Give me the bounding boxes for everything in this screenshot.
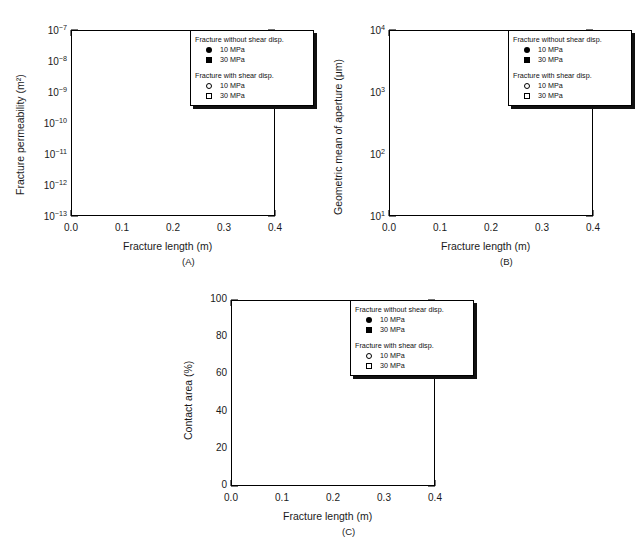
legend-label: 10 MPa	[538, 45, 563, 55]
panel-b-x-axis-label: Fracture length (m)	[441, 240, 530, 252]
x-tick-label: 0.3	[531, 222, 553, 233]
x-tick-label: 0.4	[424, 492, 446, 503]
panel-c: Contact area (%) 020406080100 0.00.10.20…	[160, 272, 480, 542]
panel-c-legend: Fracture without shear disp. 10 MPa 30 M…	[350, 300, 474, 376]
y-tick-label: 103	[345, 85, 385, 98]
legend-label: 30 MPa	[220, 91, 245, 101]
legend-label: 30 MPa	[220, 55, 245, 65]
open-square-icon	[363, 363, 375, 369]
legend-label: 30 MPa	[380, 361, 405, 371]
panel-a-legend: Fracture without shear disp. 10 MPa 30 M…	[190, 30, 314, 106]
legend-row-without-10mpa: 10 MPa	[521, 45, 626, 55]
y-tick-label: 10−9	[27, 85, 67, 98]
filled-square-icon	[521, 57, 533, 63]
panel-b-legend: Fracture without shear disp. 10 MPa 30 M…	[508, 30, 632, 106]
open-circle-icon	[521, 83, 533, 89]
legend-title-without-shear: Fracture without shear disp.	[355, 305, 468, 315]
y-tick-label: 101	[345, 209, 385, 222]
legend-label: 30 MPa	[538, 55, 563, 65]
filled-square-icon	[363, 327, 375, 333]
legend-row-with-30mpa: 30 MPa	[363, 361, 468, 371]
x-tick-label: 0.0	[378, 222, 400, 233]
legend-label: 30 MPa	[380, 325, 405, 335]
legend-row-with-30mpa: 30 MPa	[203, 91, 308, 101]
y-tick-label: 80	[187, 330, 227, 341]
legend-label: 10 MPa	[380, 315, 405, 325]
legend-row-with-10mpa: 10 MPa	[203, 81, 308, 91]
x-tick-label: 0.0	[60, 222, 82, 233]
x-tick-label: 0.2	[480, 222, 502, 233]
filled-circle-icon	[363, 317, 375, 323]
x-tick-label: 0.3	[373, 492, 395, 503]
y-tick-label: 10−11	[27, 147, 67, 160]
panel-a: Fracture permeability (m²) 10−1310−1210−…	[0, 0, 320, 275]
filled-square-icon	[203, 57, 215, 63]
y-tick-label: 10−8	[27, 54, 67, 67]
panel-c-tag: (C)	[342, 526, 355, 537]
y-tick-label: 102	[345, 147, 385, 160]
legend-row-with-10mpa: 10 MPa	[521, 81, 626, 91]
x-tick-label: 0.4	[264, 222, 286, 233]
legend-label: 10 MPa	[380, 351, 405, 361]
legend-label: 10 MPa	[538, 81, 563, 91]
x-tick-label: 0.2	[162, 222, 184, 233]
y-tick-label: 0	[187, 479, 227, 490]
x-tick-label: 0.1	[429, 222, 451, 233]
legend-title-without-shear: Fracture without shear disp.	[513, 35, 626, 45]
legend-row-without-10mpa: 10 MPa	[203, 45, 308, 55]
legend-title-with-shear: Fracture with shear disp.	[513, 71, 626, 81]
y-tick-label: 20	[187, 442, 227, 453]
open-square-icon	[203, 93, 215, 99]
x-tick-label: 0.3	[213, 222, 235, 233]
y-tick-label: 10−13	[27, 209, 67, 222]
panel-b: Geometric mean of aperture (μm) 10110210…	[318, 0, 637, 275]
y-tick-label: 60	[187, 367, 227, 378]
legend-row-without-30mpa: 30 MPa	[203, 55, 308, 65]
open-circle-icon	[203, 83, 215, 89]
open-square-icon	[521, 93, 533, 99]
panel-b-y-axis-label: Geometric mean of aperture (μm)	[332, 59, 344, 215]
filled-circle-icon	[203, 47, 215, 53]
panel-a-x-axis-label: Fracture length (m)	[123, 240, 212, 252]
y-tick-label: 100	[187, 293, 227, 304]
legend-label: 10 MPa	[220, 81, 245, 91]
x-tick-label: 0.1	[271, 492, 293, 503]
legend-label: 30 MPa	[538, 91, 563, 101]
y-tick-label: 40	[187, 405, 227, 416]
panel-b-tag: (B)	[500, 256, 513, 267]
panel-a-tag: (A)	[182, 256, 195, 267]
open-circle-icon	[363, 353, 375, 359]
filled-circle-icon	[521, 47, 533, 53]
y-tick-label: 10−7	[27, 23, 67, 36]
legend-row-with-30mpa: 30 MPa	[521, 91, 626, 101]
legend-row-without-30mpa: 30 MPa	[521, 55, 626, 65]
x-tick-label: 0.0	[220, 492, 242, 503]
legend-label: 10 MPa	[220, 45, 245, 55]
x-tick-label: 0.1	[111, 222, 133, 233]
legend-row-without-30mpa: 30 MPa	[363, 325, 468, 335]
legend-title-without-shear: Fracture without shear disp.	[195, 35, 308, 45]
y-tick-label: 10−10	[27, 116, 67, 129]
x-tick-label: 0.2	[322, 492, 344, 503]
legend-title-with-shear: Fracture with shear disp.	[355, 341, 468, 351]
legend-title-with-shear: Fracture with shear disp.	[195, 71, 308, 81]
panel-c-x-axis-label: Fracture length (m)	[283, 510, 372, 522]
legend-row-with-10mpa: 10 MPa	[363, 351, 468, 361]
panel-a-y-axis-label: Fracture permeability (m²)	[14, 74, 26, 195]
legend-row-without-10mpa: 10 MPa	[363, 315, 468, 325]
x-tick-label: 0.4	[582, 222, 604, 233]
y-tick-label: 104	[345, 23, 385, 36]
y-tick-label: 10−12	[27, 178, 67, 191]
